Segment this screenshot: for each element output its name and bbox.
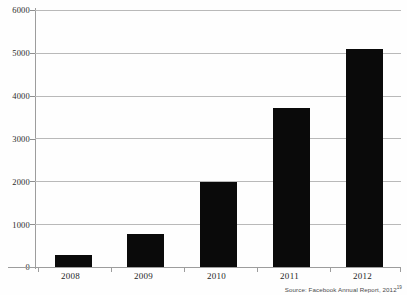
bar-2011 xyxy=(273,108,310,267)
x-axis-label-2010: 2010 xyxy=(195,272,238,281)
y-axis-tick-label: 3000 xyxy=(2,135,30,144)
bar-chart-figure: 6000 5000 4000 3000 2000 1000 0 2008 200… xyxy=(0,0,407,295)
x-axis-line xyxy=(8,267,401,268)
x-axis-label-2009: 2009 xyxy=(122,272,165,281)
x-axis-label-2008: 2008 xyxy=(49,272,92,281)
y-axis-tick-label: 5000 xyxy=(2,49,30,58)
x-axis-tick-mark xyxy=(184,268,185,272)
x-axis-tick-mark xyxy=(38,268,39,272)
x-axis-tick-mark xyxy=(400,268,401,272)
bar-2012 xyxy=(346,49,383,267)
y-axis-tick-label: 4000 xyxy=(2,92,30,101)
x-axis-tick-mark xyxy=(111,268,112,272)
bar-2009 xyxy=(127,234,164,267)
source-citation-text: Source: Facebook Annual Report, 2012 xyxy=(285,286,397,293)
bar-2008 xyxy=(55,255,92,267)
bar-2010 xyxy=(200,182,237,267)
y-axis-tick-label: 1000 xyxy=(2,221,30,230)
x-axis-label-2011: 2011 xyxy=(268,272,311,281)
gridline-6000 xyxy=(35,10,401,11)
x-axis-label-2012: 2012 xyxy=(341,272,384,281)
x-axis-tick-mark xyxy=(257,268,258,272)
plot-area xyxy=(35,10,401,267)
x-axis-tick-mark xyxy=(330,268,331,272)
source-footnote-marker: 19 xyxy=(397,285,402,290)
source-citation: Source: Facebook Annual Report, 201219 xyxy=(285,285,402,293)
y-axis-tick-label: 2000 xyxy=(2,178,30,187)
y-axis-tick-label: 6000 xyxy=(2,6,30,15)
